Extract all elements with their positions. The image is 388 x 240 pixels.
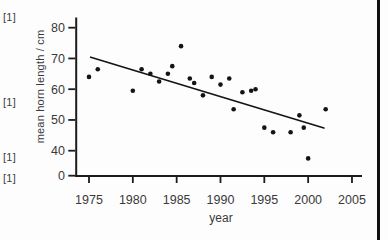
x-tick-label: 2000 [294, 193, 322, 207]
data-point [192, 81, 197, 86]
y-tick-label: 0 [58, 169, 65, 183]
x-axis-ticks: 1975198019851990199520002005 [75, 177, 366, 207]
x-tick-label: 1975 [75, 193, 103, 207]
data-point [148, 72, 153, 77]
data-points [87, 44, 328, 161]
data-point [262, 125, 267, 130]
y-tick-label: 50 [51, 113, 65, 127]
data-point [188, 76, 193, 81]
trend-line [91, 57, 324, 128]
data-point [157, 79, 162, 84]
data-point [231, 107, 236, 112]
data-point [139, 67, 144, 72]
data-point [240, 90, 245, 95]
horn-length-scatter-chart: 807060504001975198019851990199520002005y… [0, 0, 388, 240]
y-axis-title: mean horn length / cm [34, 30, 46, 144]
data-point [249, 88, 254, 93]
data-point [179, 44, 184, 49]
exam-page: [1] [1] [1] [1] 807060504001975198019851… [0, 0, 388, 240]
data-point [170, 64, 175, 69]
data-point [209, 75, 214, 80]
y-tick-label: 70 [51, 52, 65, 66]
data-point [288, 130, 293, 135]
data-point [227, 76, 232, 81]
data-point [131, 88, 136, 93]
data-point [253, 87, 258, 92]
data-point [297, 113, 302, 118]
data-point [166, 72, 171, 77]
data-point [271, 130, 276, 135]
data-point [95, 67, 100, 72]
data-point [301, 125, 306, 130]
y-axis-ticks: 80706050400 [51, 21, 75, 183]
x-tick-label: 1985 [163, 193, 191, 207]
axes [75, 18, 362, 178]
data-point [201, 93, 206, 98]
y-tick-label: 40 [51, 144, 65, 158]
data-point [323, 107, 328, 112]
x-tick-label: 2005 [338, 193, 366, 207]
x-axis-title: year [209, 211, 232, 225]
x-tick-label: 1990 [207, 193, 235, 207]
x-tick-label: 1995 [250, 193, 278, 207]
y-tick-label: 80 [51, 21, 65, 35]
data-point [87, 75, 92, 80]
data-point [218, 82, 223, 87]
page-edge-rule [377, 0, 380, 240]
x-tick-label: 1980 [119, 193, 147, 207]
y-tick-label: 60 [51, 83, 65, 97]
data-point [306, 156, 311, 161]
